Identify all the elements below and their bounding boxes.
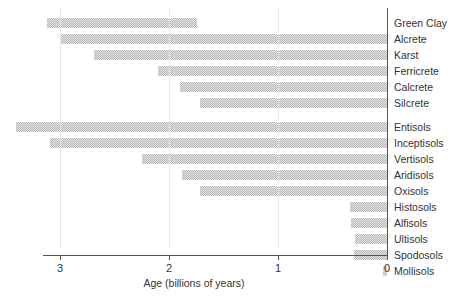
- gridline-2: [169, 8, 170, 248]
- bar-ferricrete: [158, 66, 387, 76]
- bar-silcrete: [200, 98, 387, 108]
- row-label-ferricrete: Ferricrete: [394, 65, 439, 77]
- row-label-vertisols: Vertisols: [394, 153, 434, 165]
- gridline-1: [278, 8, 279, 248]
- x-axis-tick-label-2: 2: [149, 261, 189, 275]
- row-label-spodosols: Spodosols: [394, 249, 443, 261]
- x-axis-tick-label-0: 0: [367, 261, 407, 275]
- x-axis-tick-3: [60, 255, 61, 260]
- row-label-alfisols: Alfisols: [394, 217, 427, 229]
- bar-inceptisols: [50, 138, 387, 148]
- bar-calcrete: [180, 82, 387, 92]
- gridline-3: [60, 8, 61, 248]
- x-axis-tick-2: [169, 255, 170, 260]
- row-label-green-clay: Green Clay: [394, 17, 447, 29]
- bar-vertisols: [142, 154, 387, 164]
- x-axis-tick-0: [387, 255, 388, 260]
- bar-alcrete: [60, 34, 387, 44]
- row-label-alcrete: Alcrete: [394, 33, 427, 45]
- y-axis-line: [387, 8, 388, 256]
- x-axis-line: [43, 255, 388, 256]
- x-axis-tick-1: [278, 255, 279, 260]
- bar-histosols: [350, 202, 387, 212]
- row-label-ultisols: Ultisols: [394, 233, 428, 245]
- row-label-aridisols: Aridisols: [394, 169, 434, 181]
- x-axis-tick-label-3: 3: [40, 261, 80, 275]
- bar-oxisols: [200, 186, 387, 196]
- row-label-calcrete: Calcrete: [394, 81, 433, 93]
- x-axis-title: Age (billions of years): [0, 277, 388, 289]
- bar-karst: [94, 50, 387, 60]
- plot-area: Green ClayAlcreteKarstFerricreteCalcrete…: [0, 0, 468, 297]
- bar-ultisols: [355, 234, 387, 244]
- row-label-entisols: Entisols: [394, 121, 431, 133]
- bar-alfisols: [351, 218, 387, 228]
- row-label-inceptisols: Inceptisols: [394, 137, 444, 149]
- chart-container: Green ClayAlcreteKarstFerricreteCalcrete…: [0, 0, 468, 297]
- x-axis-tick-label-1: 1: [258, 261, 298, 275]
- row-label-oxisols: Oxisols: [394, 185, 428, 197]
- bar-green-clay: [47, 18, 197, 28]
- row-label-histosols: Histosols: [394, 201, 437, 213]
- row-label-karst: Karst: [394, 49, 419, 61]
- bar-entisols: [16, 122, 387, 132]
- bar-aridisols: [182, 170, 387, 180]
- row-label-silcrete: Silcrete: [394, 97, 429, 109]
